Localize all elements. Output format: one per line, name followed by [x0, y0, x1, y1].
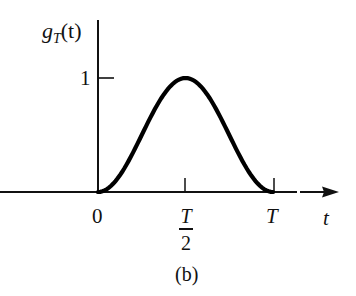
x-tick-label-T: T: [266, 206, 278, 227]
x-axis-label: t: [323, 208, 329, 229]
x-tick-half-denominator: 2: [178, 233, 194, 253]
y-tick-label-1: 1: [80, 68, 91, 89]
fraction-bar: [179, 228, 193, 230]
y-label-g: g: [42, 18, 53, 43]
y-label-arg: (t): [61, 18, 82, 43]
arrow-right-icon: [322, 187, 339, 198]
x-tick-half-numerator: T: [178, 206, 194, 226]
figure-caption: (b): [175, 264, 198, 284]
x-tick-label-half: T 2: [178, 206, 194, 253]
raised-cosine-curve: [98, 78, 273, 192]
y-axis-label: gT(t): [42, 20, 82, 46]
y-label-subscript: T: [53, 31, 61, 46]
x-tick-label-0: 0: [92, 206, 103, 227]
